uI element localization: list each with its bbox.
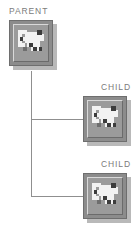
network-node-icon[interactable]: [83, 173, 127, 219]
node-child-1[interactable]: CHILD: [79, 82, 131, 146]
node-parent-label: PARENT: [9, 6, 65, 16]
node-child-2-icon-wrap[interactable]: [83, 173, 131, 223]
icon-face: [87, 177, 123, 215]
node-child-1-label: CHILD: [79, 82, 131, 92]
network-node-icon[interactable]: [9, 20, 53, 66]
icon-face: [87, 100, 123, 138]
icon-face: [13, 24, 49, 62]
node-parent[interactable]: PARENT: [9, 6, 65, 70]
node-child-2-label: CHILD: [79, 159, 131, 169]
connector-trunk-vertical: [31, 71, 32, 197]
diagram-canvas: PARENT: [0, 0, 135, 233]
network-node-icon[interactable]: [83, 96, 127, 142]
node-child-2[interactable]: CHILD: [79, 159, 131, 223]
node-child-1-icon-wrap[interactable]: [83, 96, 131, 146]
node-parent-icon-wrap[interactable]: [9, 20, 57, 70]
